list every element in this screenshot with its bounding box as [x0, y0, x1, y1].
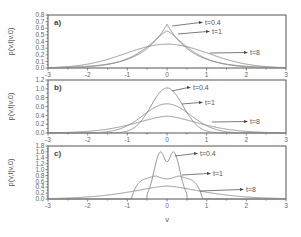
y-axis-title: p(v,t|v,0): [6, 27, 15, 55]
panel-b: 0.00.20.40.60.81.01.2-3-2-10123b)p(v,t|v…: [6, 76, 288, 143]
x-tick-label: 2: [245, 202, 249, 209]
x-tick-label: 0: [165, 202, 169, 209]
y-tick-label: 0.6: [35, 103, 44, 110]
y-tick-label: 0.4: [35, 112, 44, 119]
x-tick-label: -1: [124, 71, 130, 78]
y-tick-label: 0.0: [35, 129, 44, 136]
x-tick-label: 1: [205, 202, 209, 209]
x-tick-label: -1: [124, 136, 130, 143]
x-tick-label: 1: [205, 136, 209, 143]
series-label: t=8: [246, 186, 256, 193]
y-tick-label: 0.8: [35, 94, 44, 101]
x-tick-label: -1: [124, 202, 130, 209]
series-label: t=1: [213, 170, 223, 177]
y-tick-label: 1.0: [35, 85, 44, 92]
x-tick-label: 3: [284, 202, 288, 209]
plot-frame: [48, 15, 286, 68]
series-t-0-4: [48, 88, 286, 133]
x-tick-label: -3: [45, 202, 51, 209]
y-tick-label: 0.4: [35, 38, 44, 45]
y-tick-label: 0.8: [35, 11, 44, 18]
x-axis-title: v: [165, 215, 169, 224]
y-tick-label: 0.6: [35, 24, 44, 31]
panel-label: a): [54, 18, 61, 27]
y-tick-label: 0.1: [35, 58, 44, 65]
series-label: t=1: [205, 99, 215, 106]
panel-label: c): [54, 149, 61, 158]
panel-a: 0.00.10.20.30.40.50.60.70.8-3-2-10123a)p…: [6, 11, 288, 78]
x-tick-label: -2: [85, 136, 91, 143]
x-tick-label: -3: [45, 71, 51, 78]
x-tick-label: -2: [85, 202, 91, 209]
y-tick-label: 0.2: [35, 120, 44, 127]
series-label: t=0.4: [205, 19, 221, 26]
chart-canvas: 0.00.10.20.30.40.50.60.70.8-3-2-10123a)p…: [0, 0, 301, 237]
x-tick-label: 0: [165, 136, 169, 143]
x-tick-label: -2: [85, 71, 91, 78]
x-tick-label: 3: [284, 71, 288, 78]
x-tick-label: 1: [205, 71, 209, 78]
x-tick-label: 2: [245, 136, 249, 143]
series-label: t=1: [212, 28, 222, 35]
x-tick-label: 3: [284, 136, 288, 143]
series-label: t=0.4: [193, 84, 209, 91]
x-tick-label: 2: [245, 71, 249, 78]
series-label: t=8: [250, 49, 260, 56]
y-tick-label: 0.0: [35, 64, 44, 71]
y-tick-label: 0.3: [35, 44, 44, 51]
y-tick-label: 0.7: [35, 18, 44, 25]
series-label: t=0.4: [200, 150, 216, 157]
y-tick-label: 0.2: [35, 51, 44, 58]
y-tick-label: 1.2: [35, 76, 44, 83]
y-axis-title: p(v,t|v,0): [6, 158, 15, 186]
figure: 0.00.10.20.30.40.50.60.70.8-3-2-10123a)p…: [0, 0, 301, 237]
panel-c: 0.00.20.40.60.81.01.21.41.61.8-3-2-10123…: [6, 142, 288, 209]
x-tick-label: 0: [165, 71, 169, 78]
x-tick-label: -3: [45, 136, 51, 143]
series-label: t=8: [250, 118, 260, 125]
y-tick-label: 0.5: [35, 31, 44, 38]
y-tick-label: 1.8: [35, 142, 44, 149]
y-axis-title: p(v,t|v,0): [6, 92, 15, 120]
panel-label: b): [54, 83, 62, 92]
